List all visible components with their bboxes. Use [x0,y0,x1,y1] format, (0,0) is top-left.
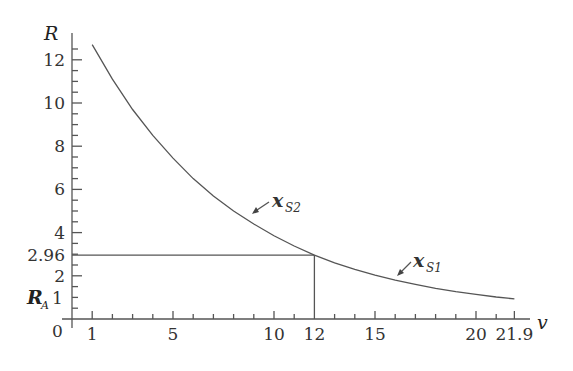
y-tick-label: 12 [43,50,65,70]
xs2-label-sub: S2 [285,201,301,215]
y-tick-label: 8 [54,136,65,156]
y-tick-label: 4 [54,223,65,243]
x-tick-label: 5 [168,324,179,344]
xs1-annotation: x S1 [397,249,442,276]
x-tick-label: 12 [304,324,326,344]
x-tick-label: 15 [364,324,386,344]
y-tick-label: 2.96 [27,245,65,265]
xs2-arrowhead-icon [252,207,259,214]
x-axis-title: v [537,311,548,333]
y-tick-label: 6 [54,179,65,199]
ticks [72,49,514,319]
guide-lines [72,255,314,319]
xs2-annotation: x S2 [252,189,301,215]
xs1-label-main: x [412,249,425,271]
xs2-label-main: x [271,189,284,211]
x-tick-label: 1 [87,324,98,344]
x-tick-label: 10 [263,324,285,344]
ra-label-value: 1 [52,288,63,308]
y-tick-label: 2 [54,266,65,286]
y-tick-label: 10 [43,93,65,113]
origin-label: 0 [52,321,63,341]
axes [62,33,530,328]
x-tick-label: 20 [465,324,487,344]
ra-label-sub: A [40,299,49,312]
y-axis-title: R [43,22,58,44]
data-curve [92,45,514,299]
xs1-label-sub: S1 [426,261,442,275]
x-tick-label: 21.9 [495,324,533,344]
chart: 151012152021.922.964681012 R v 0 R A 1 x… [0,0,573,371]
ra-label: R A 1 [26,286,63,312]
